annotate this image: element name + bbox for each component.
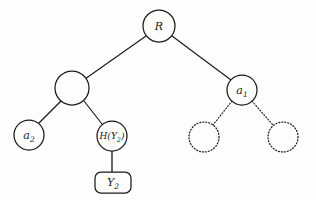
edge-a1-to-placeholder-left <box>213 101 232 125</box>
node-hash-label-base: H(Y <box>99 131 118 141</box>
node-hash[interactable]: H(Y2) <box>97 121 127 151</box>
node-a1[interactable]: a1 <box>227 75 257 105</box>
node-root[interactable]: R <box>143 10 175 42</box>
node-placeholder-right[interactable] <box>268 122 298 152</box>
edge-internal-left-to-a2 <box>39 101 61 123</box>
node-hash-label-tail: ) <box>120 131 125 141</box>
node-y2-box[interactable]: Y2 <box>95 172 131 193</box>
tree-diagram-canvas: R a1 a2 <box>0 0 316 200</box>
node-placeholder-right-circle[interactable] <box>268 122 298 152</box>
edge-root-to-internal-left <box>85 36 146 79</box>
node-a1-label-subscript: 1 <box>243 90 248 99</box>
edge-internal-left-to-hash <box>84 101 102 124</box>
edge-root-to-a1 <box>172 36 231 80</box>
node-y2-label-subscript: 2 <box>113 182 119 191</box>
node-a2[interactable]: a2 <box>14 120 44 150</box>
node-internal-left[interactable] <box>55 71 89 105</box>
node-a2-label-subscript: 2 <box>29 135 35 144</box>
edge-a1-to-placeholder-right <box>252 101 273 125</box>
node-placeholder-left-circle[interactable] <box>189 122 219 152</box>
node-internal-left-circle[interactable] <box>55 71 89 105</box>
tree-diagram-figure: R a1 a2 <box>0 0 316 200</box>
node-placeholder-left[interactable] <box>189 122 219 152</box>
node-root-label: R <box>154 20 163 33</box>
node-layer: R a1 a2 <box>14 10 298 193</box>
